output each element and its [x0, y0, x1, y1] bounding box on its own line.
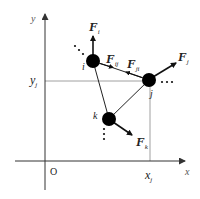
node-j: [142, 73, 156, 87]
force-label-F-j: Fj: [177, 49, 189, 66]
force-arrow-F-j: [153, 63, 176, 77]
ellipsis-dots-k: [103, 128, 105, 140]
bond-j-k: [109, 80, 149, 119]
node-i: [86, 54, 100, 68]
ellipsis-dots-j: [161, 81, 173, 83]
ellipsis-dots-i: [74, 45, 84, 55]
xj-label: xj: [144, 168, 152, 184]
y-axis-label: y: [30, 13, 36, 24]
node-k: [102, 112, 116, 126]
node-j-label: j: [148, 88, 153, 99]
origin-label: O: [50, 166, 57, 177]
force-label-F-i: Fi: [88, 19, 100, 36]
node-i-label: i: [82, 61, 85, 72]
force-label-F-ji: Fji: [126, 56, 140, 73]
node-k-label: k: [93, 110, 98, 121]
x-axis-label: x: [184, 166, 190, 177]
force-arrow-F-ji: [126, 72, 142, 78]
force-arrow-F-k: [113, 122, 132, 135]
force-label-F-ij: Fij: [105, 51, 119, 68]
force-label-F-k: Fk: [135, 134, 149, 151]
particle-force-diagram: y x O xj yj i j k Fi Fj Fk Fij Fji: [0, 0, 200, 199]
yj-label: yj: [29, 73, 37, 89]
